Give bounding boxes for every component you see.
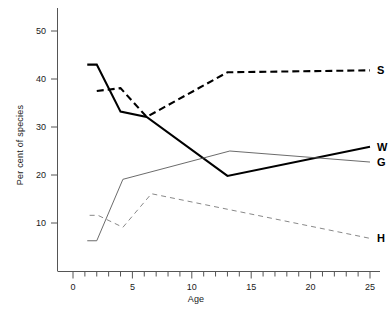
x-axis-ticks: 0510152025 [70, 272, 375, 293]
y-tick-label: 40 [36, 74, 46, 84]
series-end-labels: SWGH [377, 64, 388, 244]
x-tick-label: 25 [365, 282, 375, 292]
data-series-group [87, 65, 370, 241]
x-tick-label: 0 [70, 282, 75, 292]
series-label-w: W [377, 141, 388, 153]
y-tick-label: 20 [36, 170, 46, 180]
series-line-w [87, 65, 370, 176]
y-tick-label: 50 [36, 26, 46, 36]
x-tick-label: 5 [130, 282, 135, 292]
series-line-g [87, 151, 370, 241]
y-axis-ticks: 1020304050 [36, 26, 58, 228]
series-label-g: G [377, 156, 386, 168]
line-chart-plot: 1020304050 0510152025 SWGH [0, 0, 392, 314]
series-line-h [90, 194, 370, 239]
y-tick-label: 30 [36, 122, 46, 132]
series-label-s: S [377, 64, 384, 76]
y-axis-title: Per cent of species [15, 70, 25, 220]
x-tick-label: 15 [246, 282, 256, 292]
series-label-h: H [377, 232, 385, 244]
x-tick-label: 20 [306, 282, 316, 292]
chart-container: 1020304050 0510152025 SWGH Age Per cent … [0, 0, 392, 314]
series-line-s [97, 70, 370, 117]
x-axis-title: Age [0, 294, 392, 304]
x-tick-label: 10 [187, 282, 197, 292]
y-tick-label: 10 [36, 218, 46, 228]
